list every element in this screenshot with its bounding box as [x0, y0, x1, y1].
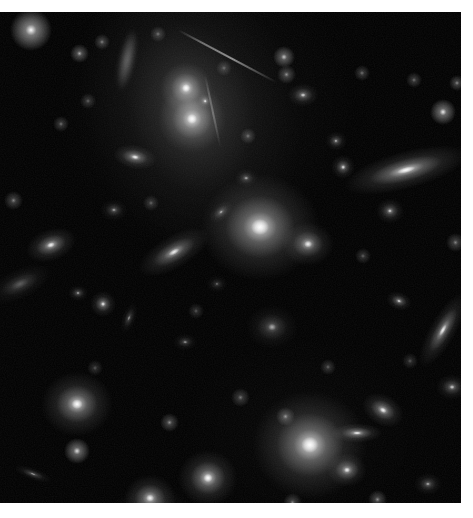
star-point-source: [216, 60, 231, 75]
galaxy-halo: [205, 197, 237, 228]
galaxy-cD-common-envelope: [47, 12, 333, 280]
galaxy-core: [101, 302, 105, 306]
star-point-source: [276, 407, 295, 426]
galaxy-core: [204, 474, 213, 483]
galaxy-faint-galaxy-upper-mid: [234, 168, 258, 187]
galaxy-point-galaxy-below-disk: [90, 291, 116, 317]
galaxy-halo: [376, 198, 404, 223]
galaxy-edge-on-lenticular-east: [339, 135, 461, 205]
star-point-source: [320, 359, 335, 374]
galaxy-core: [112, 208, 116, 211]
star-point-source: [188, 303, 203, 318]
galaxy-halo: [112, 486, 192, 503]
galaxy-edge-on-bar-right-of-elliptical: [331, 423, 383, 443]
bottom-white-margin: [0, 503, 473, 518]
galaxy-companion-east-of-central: [282, 222, 334, 266]
galaxy-cD-nucleus-north: [160, 62, 212, 114]
galaxy-halo: [178, 450, 238, 504]
star-point-source: [4, 191, 23, 210]
galaxy-core: [204, 100, 207, 103]
galaxy-galaxy-top-right-quadrant: [325, 131, 347, 151]
galaxy-small-galaxy-mid-left: [68, 285, 88, 301]
galaxy-bright-elliptical-lower-left: [41, 372, 113, 437]
star-point-source: [64, 438, 91, 465]
star-point-source: [430, 99, 457, 126]
galaxy-galaxy-far-right-mid: [436, 374, 461, 400]
galaxy-galaxy-below-bar: [327, 453, 367, 487]
galaxy-galaxy-bottom-left-of-center: [124, 475, 176, 503]
galaxy-halo: [331, 423, 383, 443]
star-point-source: [80, 93, 95, 108]
star-point-source: [231, 388, 250, 407]
galaxy-halo: [327, 453, 367, 487]
galaxy-halo: [356, 386, 410, 435]
galaxy-halo: [436, 374, 461, 400]
galaxy-bright-galaxy-bottom-center: [178, 450, 238, 504]
star-point-source: [446, 233, 462, 252]
galaxy-core: [168, 247, 181, 257]
galaxy-halo: [325, 131, 347, 151]
galaxy-halo: [384, 288, 415, 314]
galaxy-galaxy-lower-mid-left: [173, 334, 197, 351]
galaxy-core: [131, 155, 138, 160]
star-point-source: [70, 44, 89, 63]
galaxy-core: [334, 140, 337, 143]
icm-glow: [55, 12, 355, 257]
galaxy-core: [301, 437, 318, 454]
galaxy-halo: [339, 135, 461, 205]
star-point-source: [354, 65, 369, 80]
galaxy-core: [215, 283, 218, 286]
galaxy-galaxy-left-of-lenticular: [331, 155, 355, 179]
sky-image-plate: [0, 12, 461, 503]
galaxy-halo: [410, 287, 461, 373]
star-point-source: [273, 46, 296, 69]
galaxy-halo: [90, 291, 116, 317]
galaxy-faint-elongated-center-left: [117, 301, 141, 336]
galaxy-compact-knot-right: [384, 288, 415, 314]
galaxy-halo: [124, 475, 176, 503]
galaxy-halo: [287, 83, 319, 107]
galaxy-core: [30, 472, 36, 476]
galaxy-inclined-disk-west: [131, 217, 217, 286]
sensor-noise-overlay: [0, 12, 461, 503]
galaxy-core: [268, 324, 276, 331]
galaxy-central-bright-elliptical: [200, 173, 320, 281]
galaxy-core: [450, 385, 455, 389]
galaxy-core: [397, 299, 402, 303]
galaxy-core: [127, 315, 131, 320]
streak-satellite-trail: [178, 29, 278, 83]
star-point-source: [53, 116, 68, 131]
galaxy-core: [183, 341, 187, 344]
galaxy-galaxy-upper-right-of-elliptical: [356, 386, 410, 435]
galaxy-small-galaxy-right-upper: [287, 83, 319, 107]
galaxy-galaxy-bottom-right-corner: [414, 473, 442, 495]
galaxy-halo: [331, 155, 355, 179]
galaxy-spheroid-below-lenticular: [376, 198, 404, 223]
galaxy-core: [146, 494, 154, 501]
star-point-source: [150, 26, 165, 41]
galaxy-faint-edge-on-lower-left: [12, 462, 54, 487]
star-point-source: [87, 360, 102, 375]
galaxy-diffuse-object-bottom: [112, 486, 192, 503]
galaxy-large-elliptical-lower-right: [252, 390, 368, 500]
galaxy-halo: [111, 141, 159, 172]
tidal-wisp: [113, 27, 142, 93]
star-point-source: [406, 72, 421, 87]
galaxy-halo: [414, 473, 442, 495]
galaxy-core: [244, 177, 248, 180]
galaxy-halo: [206, 275, 228, 293]
galaxy-galaxy-west-of-cd: [111, 141, 159, 172]
galaxy-galaxy-left-of-central: [205, 197, 237, 228]
galaxy-galaxy-below-cd-west: [100, 199, 128, 221]
galaxy-halo: [234, 168, 258, 187]
star-point-source: [143, 195, 158, 210]
galaxy-core: [301, 93, 306, 97]
galaxy-core: [353, 432, 361, 435]
galaxy-halo: [68, 285, 88, 301]
galaxy-halo: [160, 62, 212, 114]
top-white-margin: [0, 0, 473, 12]
galaxy-halo: [131, 217, 217, 286]
galaxy-core: [379, 406, 387, 413]
star-point-source: [277, 65, 296, 84]
galaxy-halo: [0, 256, 57, 312]
